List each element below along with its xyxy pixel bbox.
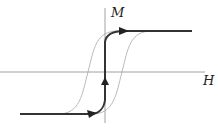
loop-right-branch xyxy=(92,31,152,114)
m-axis-label: M xyxy=(110,5,125,20)
hysteresis-diagram: M H xyxy=(0,0,218,137)
h-axis-label: H xyxy=(202,73,215,88)
magnetization-path xyxy=(20,31,192,114)
arrow-up-icon xyxy=(101,77,109,85)
loop-left-branch xyxy=(58,31,118,114)
arrow-top-icon xyxy=(119,27,129,35)
